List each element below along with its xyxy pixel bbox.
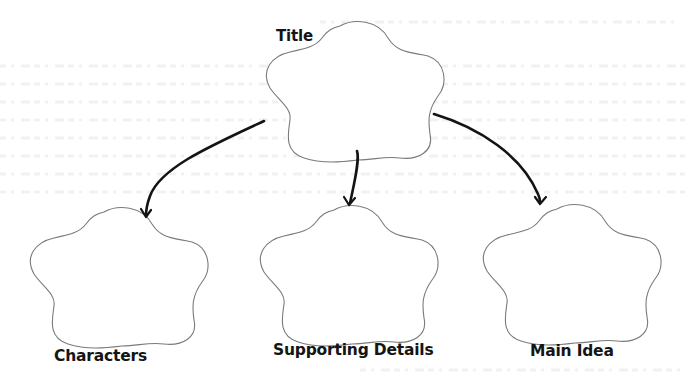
arrow-title-to-characters — [141, 121, 264, 217]
characters-label: Characters — [54, 347, 147, 365]
supporting-details-label: Supporting Details — [273, 341, 433, 359]
characters-flower-shape — [30, 208, 208, 348]
arrow-title-to-main-idea — [434, 114, 546, 204]
supporting-details-node[interactable] — [260, 206, 438, 346]
characters-node[interactable] — [30, 208, 208, 348]
main-idea-label: Main Idea — [530, 342, 614, 360]
supporting-details-flower-shape — [260, 206, 438, 346]
graphic-organizer-diagram — [0, 0, 685, 381]
title-label: Title — [276, 27, 313, 45]
main-idea-flower-shape — [483, 205, 661, 345]
main-idea-node[interactable] — [483, 205, 661, 345]
